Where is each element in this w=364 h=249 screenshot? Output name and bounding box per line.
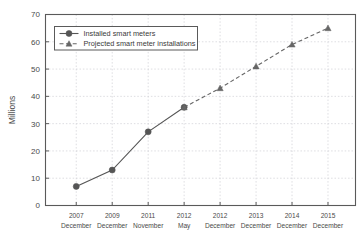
x-tick-label-month: December: [277, 222, 308, 229]
y-tick-label: 70: [31, 10, 40, 19]
x-tick-label-month: December: [61, 222, 92, 229]
y-tick-label: 20: [31, 147, 40, 156]
x-tick-label-year: 2014: [285, 212, 300, 219]
x-tick-label-year: 2012: [213, 212, 228, 219]
x-tick-label-year: 2012: [177, 212, 192, 219]
y-axis-label: Millions: [7, 96, 17, 124]
y-tick-label: 50: [31, 65, 40, 74]
line-chart: 010203040506070 2007December2009December…: [0, 0, 364, 249]
x-tick-label-month: December: [241, 222, 272, 229]
data-point-circle: [66, 31, 72, 37]
x-tick-label-year: 2007: [69, 212, 84, 219]
x-tick-label-month: December: [313, 222, 344, 229]
data-point-circle: [73, 183, 79, 189]
data-point-circle: [109, 167, 115, 173]
y-tick-label: 60: [31, 38, 40, 47]
y-axis-title: Millions: [7, 96, 17, 124]
x-tick-label-month: December: [97, 222, 128, 229]
y-tick-label: 40: [31, 92, 40, 101]
x-tick-label-month: December: [205, 222, 236, 229]
x-tick-label-month: May: [178, 222, 191, 230]
x-tick-label-month: November: [133, 222, 164, 229]
x-tick-label-year: 2009: [105, 212, 120, 219]
x-tick-label-year: 2015: [321, 212, 336, 219]
legend-label: Installed smart meters: [84, 29, 156, 38]
x-tick-label-year: 2011: [141, 212, 156, 219]
y-tick-label: 10: [31, 174, 40, 183]
chart-legend[interactable]: Installed smart metersProjected smart me…: [55, 27, 198, 51]
data-point-circle: [145, 129, 151, 135]
legend-label: Projected smart meter installations: [84, 39, 196, 48]
y-tick-label: 0: [36, 201, 41, 210]
chart-container: 010203040506070 2007December2009December…: [0, 0, 364, 249]
y-tick-label: 30: [31, 120, 40, 129]
x-tick-label-year: 2013: [249, 212, 264, 219]
